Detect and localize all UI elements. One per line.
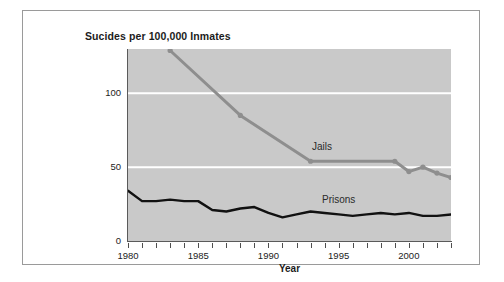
- y-tick-label-50: 50: [87, 161, 121, 172]
- x-tick-1983: [170, 243, 171, 248]
- x-tick-1986: [212, 243, 213, 248]
- data-point-jails-2000: [406, 169, 411, 174]
- x-tick-1991: [282, 243, 283, 248]
- chart-title: Sucides per 100,000 Inmates: [85, 30, 231, 42]
- x-tick-1993: [311, 243, 312, 248]
- y-tick-label-100: 100: [87, 87, 121, 98]
- x-tick-1984: [184, 243, 185, 248]
- data-point-jails-1988: [238, 113, 243, 118]
- series-label-prisons: Prisons: [322, 194, 355, 205]
- y-axis-line: [127, 49, 128, 242]
- series-line-jails: [170, 50, 451, 177]
- x-tick-1982: [156, 243, 157, 248]
- chart-frame: Sucides per 100,000 Inmates 050100 19801…: [22, 10, 480, 265]
- x-tick-1987: [226, 243, 227, 248]
- x-tick-1981: [142, 243, 143, 248]
- data-point-jails-2002: [434, 170, 439, 175]
- x-tick-2000: [409, 243, 410, 248]
- x-tick-2002: [437, 243, 438, 248]
- series-layer: [128, 49, 451, 217]
- x-tick-1985: [198, 243, 199, 248]
- x-tick-1999: [395, 243, 396, 248]
- x-tick-2001: [423, 243, 424, 248]
- x-tick-1990: [268, 243, 269, 248]
- data-point-jails-1999: [392, 159, 397, 164]
- x-tick-1980: [128, 243, 129, 248]
- x-tick-1994: [325, 243, 326, 248]
- data-point-jails-1993: [308, 159, 313, 164]
- gridlines: [128, 93, 451, 167]
- x-tick-1995: [339, 243, 340, 248]
- x-axis-title: Year: [128, 263, 451, 274]
- x-tick-1989: [254, 243, 255, 248]
- y-tick-label-0: 0: [87, 235, 121, 246]
- data-point-jails-2001: [420, 165, 425, 170]
- x-tick-label-2000: 2000: [398, 250, 419, 261]
- chart-figure: Sucides per 100,000 Inmates 050100 19801…: [0, 0, 504, 282]
- x-tick-1992: [297, 243, 298, 248]
- series-label-jails: Jails: [312, 141, 332, 152]
- x-tick-1997: [367, 243, 368, 248]
- series-line-prisons: [128, 191, 451, 218]
- plot-area: [128, 49, 451, 241]
- x-tick-1988: [240, 243, 241, 248]
- plot-svg: [128, 49, 451, 241]
- x-tick-label-1980: 1980: [117, 250, 138, 261]
- x-tick-1998: [381, 243, 382, 248]
- x-axis-line: [127, 241, 452, 242]
- x-tick-1996: [353, 243, 354, 248]
- x-tick-label-1990: 1990: [258, 250, 279, 261]
- x-tick-label-1985: 1985: [188, 250, 209, 261]
- x-tick-2003: [451, 243, 452, 248]
- x-tick-label-1995: 1995: [328, 250, 349, 261]
